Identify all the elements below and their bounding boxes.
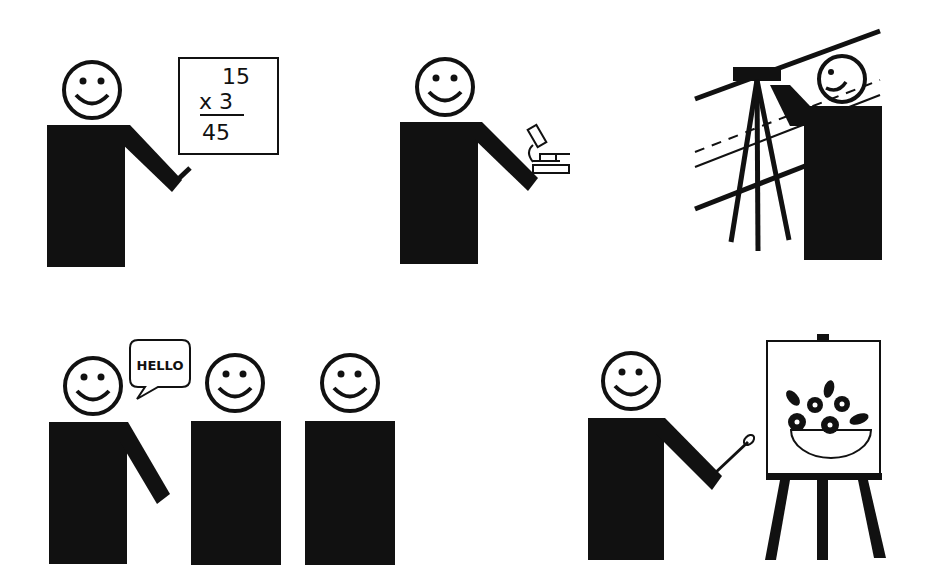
body-torso — [804, 106, 882, 260]
body-torso — [49, 422, 127, 564]
listener-2 — [305, 355, 395, 565]
paintbrush-icon — [714, 433, 756, 474]
smiley-face-icon — [322, 355, 378, 411]
body-torso — [191, 421, 281, 565]
pictogram-surveyor — [695, 31, 882, 260]
pictogram-painter — [588, 334, 886, 560]
easel — [765, 334, 886, 560]
body-torso — [305, 421, 395, 565]
arm — [656, 418, 722, 490]
pictogram-scientist — [400, 59, 570, 264]
microscope-icon — [528, 125, 570, 173]
smiley-face-icon — [207, 355, 263, 411]
speech-bubble: HELLO — [130, 340, 190, 399]
smiley-face-icon — [603, 353, 659, 409]
body-torso — [588, 418, 664, 560]
smiley-face-icon — [417, 59, 473, 115]
survey-instrument-icon — [733, 67, 781, 81]
smiley-face-icon — [65, 358, 121, 414]
pictogram-canvas: 15 x 3 45 — [0, 0, 936, 572]
board-line-3: 45 — [202, 120, 230, 145]
canvas — [767, 341, 880, 474]
pictogram-greeter: HELLO — [49, 340, 395, 565]
smiley-face-icon — [819, 56, 865, 102]
body-torso — [47, 125, 125, 267]
arm — [770, 85, 810, 126]
pictogram-teacher: 15 x 3 45 — [47, 58, 278, 267]
board-line-2: x 3 — [199, 89, 233, 114]
smiley-face-icon — [64, 62, 120, 118]
body-torso — [400, 122, 478, 264]
chalkboard: 15 x 3 45 — [179, 58, 278, 154]
terrain-line — [695, 166, 805, 209]
speech-text: HELLO — [137, 358, 184, 373]
board-line-1: 15 — [222, 64, 250, 89]
listener-1 — [191, 355, 281, 565]
flower-bowl-icon — [783, 379, 871, 458]
